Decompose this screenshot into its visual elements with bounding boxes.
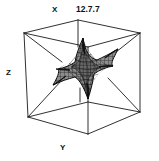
plot-canvas (0, 0, 159, 161)
cube-edge-top-right-back (78, 20, 140, 33)
cube-back-edge-left-lower (28, 80, 62, 117)
cube-edge-bottom-left-front (28, 117, 88, 134)
cube-edge-bottom-left-back (28, 102, 88, 117)
cube-edge-vertical-left (24, 33, 28, 117)
cube-edge-top-front-right (88, 33, 140, 47)
plot-figure: X Y Z 12.7.7 (0, 0, 159, 161)
figure-title: 12.7.7 (76, 5, 100, 14)
astroid-surface (53, 38, 118, 99)
cube-bottom-face (28, 102, 140, 134)
axis-label-y: Y (60, 144, 65, 152)
cube-edge-bottom-front-right (88, 112, 140, 134)
axis-label-x: X (52, 6, 57, 14)
axis-label-z: Z (6, 69, 11, 77)
cube-edge-top-back-left (24, 20, 78, 33)
